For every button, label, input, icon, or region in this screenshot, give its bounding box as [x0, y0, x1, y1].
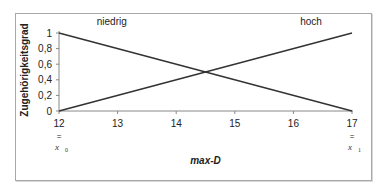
y-axis-label: Zugehörigkeitsgrad [19, 23, 30, 116]
x-tick-label: 15 [229, 118, 241, 129]
y-tick-label: 1 [46, 28, 52, 39]
x-symbol-subscript: 1 [358, 147, 361, 153]
y-tick-label: 0,6 [38, 59, 52, 70]
x-symbol-label: x [347, 142, 352, 152]
x-equals-sign: = [350, 132, 355, 141]
x-symbol-label: x [54, 142, 59, 152]
x-tick-label: 14 [171, 118, 183, 129]
x-tick-label: 12 [53, 118, 65, 129]
x-tick-label: 17 [346, 118, 358, 129]
y-tick-label: 0,4 [38, 74, 52, 85]
y-tick-label: 0,8 [38, 43, 52, 54]
y-tick-label: 0,2 [38, 90, 52, 101]
x-tick-label: 13 [112, 118, 124, 129]
annotation-hoch: hoch [300, 16, 322, 27]
x-tick-label: 16 [288, 118, 300, 129]
annotation-niedrig: niedrig [97, 16, 127, 27]
fuzzy-membership-chart: 00,20,40,60,81121314151617=x0=x1niedrigh… [0, 0, 385, 194]
x-symbol-subscript: 0 [65, 147, 68, 153]
y-tick-label: 0 [46, 106, 52, 117]
x-equals-sign: = [57, 132, 62, 141]
x-axis-label: max-D [190, 155, 221, 166]
